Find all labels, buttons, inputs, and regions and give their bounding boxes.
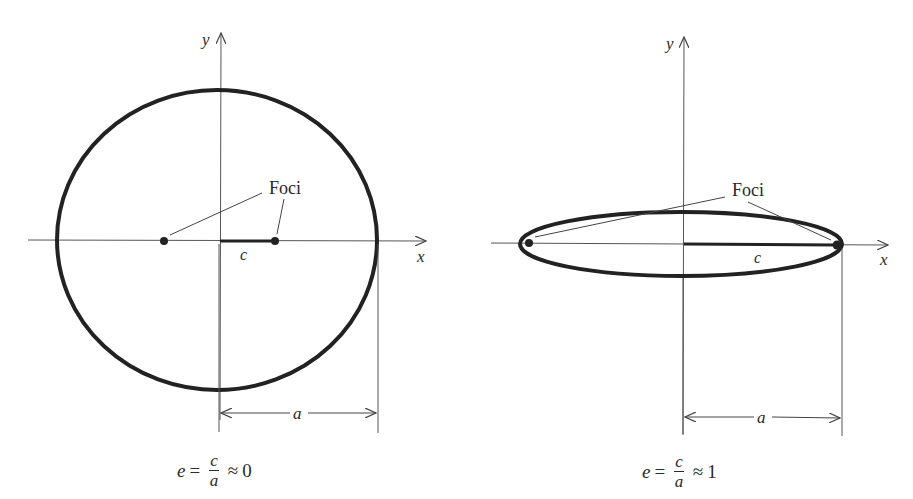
right-formula-lhs: e [642,461,650,483]
left-panel: x y c Foci a [28,30,426,433]
left-formula-numerator: c [209,452,219,471]
left-formula-approx: ≈ [228,460,238,482]
right-formula-value: 1 [707,461,717,483]
left-a-label: a [293,404,302,423]
right-formula-numerator: c [674,453,684,472]
right-a-label: a [757,408,766,427]
right-foci-leader-2 [748,202,831,240]
left-focus-2 [271,237,279,245]
left-foci-label: Foci [269,178,301,198]
right-c-segment [684,244,837,245]
right-focus-2 [833,241,842,250]
right-x-axis-label: x [879,250,888,269]
right-panel: x y c Foci a [491,34,888,436]
left-formula-fraction: c a [209,452,219,489]
left-foci-leader-1 [170,193,262,235]
right-foci-label: Foci [732,180,764,200]
left-eccentricity-formula: e = c a ≈ 0 [177,452,252,489]
right-formula-eq: = [654,461,665,483]
right-c-label: c [754,249,761,266]
left-c-label: c [240,246,247,263]
right-a-dimension-right [772,417,840,418]
eccentricity-figure: x y c Foci a x y c [0,0,913,499]
right-foci-leader-1 [535,197,725,237]
right-formula-fraction: c a [674,453,684,490]
left-formula-value: 0 [242,460,252,482]
left-foci-leader-2 [277,199,284,234]
left-formula-denominator: a [210,471,219,489]
left-x-axis-label: x [416,247,425,266]
right-formula-approx: ≈ [693,461,703,483]
right-focus-1 [525,239,533,247]
right-eccentricity-formula: e = c a ≈ 1 [642,453,717,490]
left-formula-eq: = [189,460,200,482]
left-formula-lhs: e [177,460,185,482]
left-focus-1 [160,237,168,245]
left-y-axis-label: y [200,30,210,49]
right-y-axis-label: y [664,34,674,53]
right-formula-denominator: a [675,472,684,490]
